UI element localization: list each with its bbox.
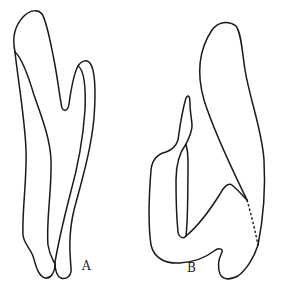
panel-b-inner-loop [176,144,188,238]
panel-b-drawing [149,23,264,279]
panel-b-dashed-boundary [247,200,258,245]
panel-b-connector [186,184,247,236]
panel-b-label: B [187,262,196,274]
panel-a-outer-left-edge [15,52,55,278]
panel-a-drawing [14,11,95,279]
figure-canvas [0,0,283,288]
panel-b-upper-lobe [200,23,265,245]
panel-a-inner-left-line [15,52,55,265]
panel-a-label: A [82,260,91,272]
